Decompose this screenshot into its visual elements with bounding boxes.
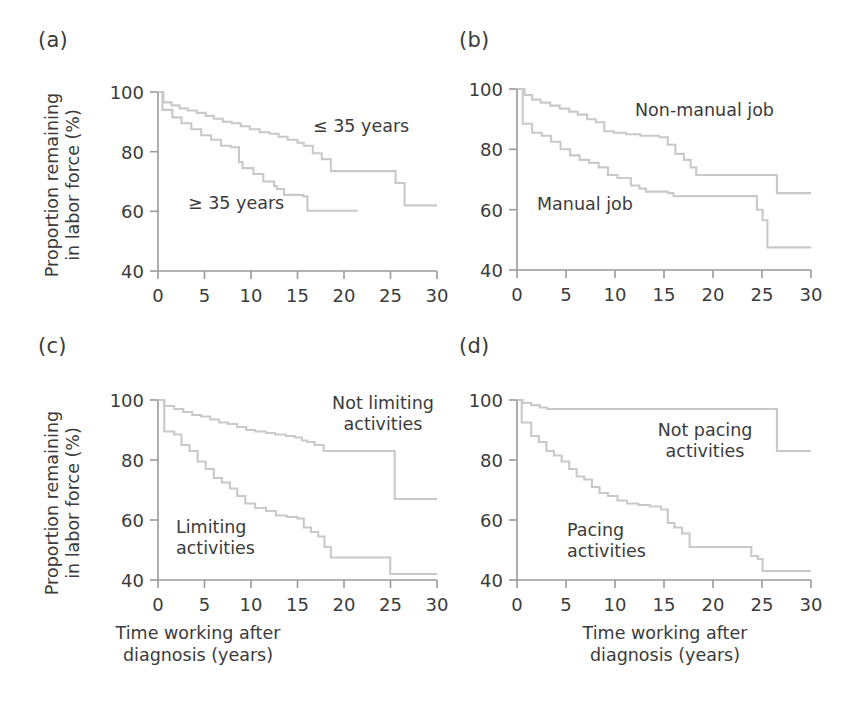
series2-label-line1: Limiting — [176, 517, 246, 537]
panel-c-xtick-0: 0 — [152, 594, 163, 615]
panel-d-ytick-60: 60 — [480, 510, 503, 531]
panel-a-xtick-25: 25 — [379, 285, 402, 306]
series2-label-line2: activities — [176, 538, 255, 558]
panel-a-y-ticks — [150, 92, 158, 271]
panel-a-series1-label: ≤ 35 years — [313, 116, 409, 137]
panel-c-xtick-15: 15 — [286, 594, 309, 615]
panel-c-ytick-40: 40 — [121, 570, 144, 591]
series1-label-line1: Not pacing — [658, 420, 753, 440]
panel-d-xtick-15: 15 — [653, 594, 676, 615]
panel-d-xtick-25: 25 — [751, 594, 774, 615]
panel-d-xtick-10: 10 — [604, 594, 627, 615]
panel-d-series2-label: Pacing activities — [567, 520, 677, 562]
panel-a-xtick-20: 20 — [333, 285, 356, 306]
panel-b-xtick-5: 5 — [560, 284, 571, 305]
x-axis-title-line2: diagnosis (years) — [123, 645, 273, 665]
panel-d-ytick-100: 100 — [469, 390, 503, 411]
panel-c-xtick-20: 20 — [333, 594, 356, 615]
panel-b: (b) 100 80 60 40 0 5 — [415, 0, 849, 330]
panel-b-xtick-10: 10 — [604, 284, 627, 305]
panel-c-xtick-5: 5 — [199, 594, 210, 615]
panel-a-xtick-0: 0 — [152, 285, 163, 306]
panel-c-xtick-25: 25 — [379, 594, 402, 615]
panel-d-xtick-5: 5 — [560, 594, 571, 615]
panel-c: (c) Proportion remaining in labor force … — [0, 310, 440, 707]
panel-a-plot: 100 80 60 40 0 5 10 15 20 25 30 — [0, 0, 440, 330]
panel-d-ytick-80: 80 — [480, 450, 503, 471]
panel-b-ytick-60: 60 — [480, 200, 503, 221]
panel-b-xtick-20: 20 — [702, 284, 725, 305]
panel-c-ytick-80: 80 — [121, 450, 144, 471]
panel-d-xtick-0: 0 — [511, 594, 522, 615]
panel-a-xtick-10: 10 — [240, 285, 263, 306]
panel-b-x-ticks — [517, 270, 811, 278]
panel-d-series1-label: Not pacing activities — [640, 420, 770, 462]
x-axis-title-line1: Time working after — [583, 623, 748, 643]
panel-a: (a) Proportion remaining in labor force … — [0, 0, 440, 330]
panel-b-xtick-25: 25 — [751, 284, 774, 305]
panel-d: (d) 100 80 60 40 0 5 — [415, 310, 849, 707]
panel-c-series2-label: Limiting activities — [176, 517, 296, 559]
curve-a-series-1 — [158, 92, 437, 205]
panel-d-xtick-20: 20 — [702, 594, 725, 615]
panel-b-ytick-100: 100 — [469, 79, 503, 100]
panel-a-ytick-40: 40 — [121, 261, 144, 282]
series1-label-line2: activities — [344, 414, 423, 434]
panel-c-x-axis-title: Time working after diagnosis (years) — [98, 623, 298, 667]
panel-d-ytick-40: 40 — [480, 570, 503, 591]
panel-c-plot: 100 80 60 40 0 5 10 15 20 25 30 — [0, 310, 440, 640]
panel-d-plot: 100 80 60 40 0 5 10 15 20 25 30 — [415, 310, 849, 640]
panel-d-y-ticks — [509, 400, 517, 580]
panel-b-y-ticks — [509, 89, 517, 270]
panel-a-ytick-100: 100 — [110, 82, 144, 103]
survival-curves-figure: (a) Proportion remaining in labor force … — [0, 0, 849, 707]
panel-b-xtick-0: 0 — [511, 284, 522, 305]
panel-a-xtick-5: 5 — [199, 285, 210, 306]
series2-label-line2: activities — [567, 541, 646, 561]
panel-b-series1-label: Non-manual job — [635, 100, 774, 121]
panel-b-series2-label: Manual job — [537, 194, 633, 215]
panel-b-xtick-30: 30 — [800, 284, 823, 305]
series2-label-line1: Pacing — [567, 520, 624, 540]
panel-c-ytick-100: 100 — [110, 390, 144, 411]
panel-c-x-ticks — [158, 580, 437, 588]
panel-a-xtick-15: 15 — [286, 285, 309, 306]
panel-b-xtick-15: 15 — [653, 284, 676, 305]
panel-b-ytick-80: 80 — [480, 139, 503, 160]
panel-d-x-ticks — [517, 580, 811, 588]
panel-a-ytick-60: 60 — [121, 201, 144, 222]
panel-c-xtick-10: 10 — [240, 594, 263, 615]
panel-c-y-ticks — [150, 400, 158, 580]
panel-a-x-ticks — [158, 271, 437, 279]
panel-d-x-axis-title: Time working after diagnosis (years) — [565, 623, 765, 667]
panel-c-ytick-60: 60 — [121, 510, 144, 531]
panel-a-ytick-80: 80 — [121, 142, 144, 163]
panel-b-ytick-40: 40 — [480, 260, 503, 281]
x-axis-title-line1: Time working after — [116, 623, 281, 643]
panel-d-xtick-30: 30 — [800, 594, 823, 615]
series1-label-line2: activities — [666, 441, 745, 461]
x-axis-title-line2: diagnosis (years) — [590, 645, 740, 665]
panel-b-plot: 100 80 60 40 0 5 10 15 20 25 30 — [415, 0, 849, 330]
panel-a-series2-label: ≥ 35 years — [188, 193, 284, 214]
